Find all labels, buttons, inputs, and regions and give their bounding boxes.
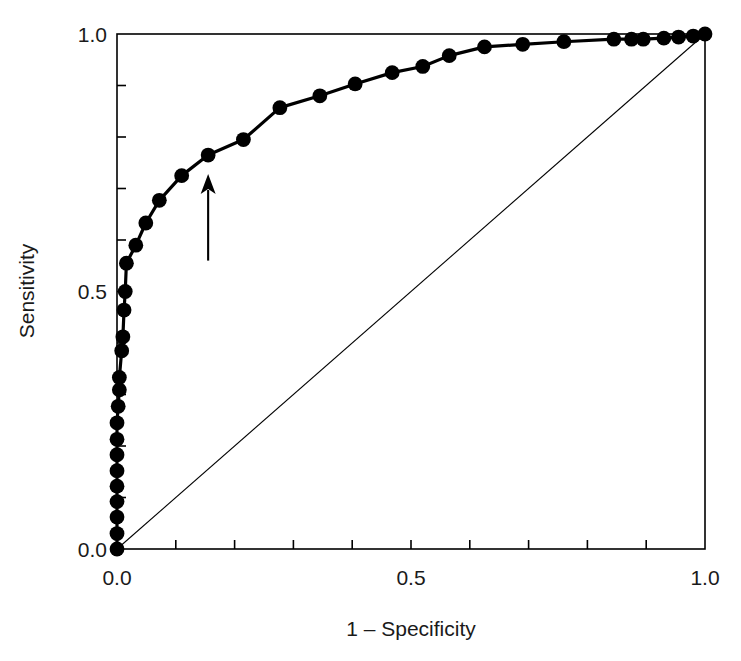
roc-data-point <box>656 31 671 46</box>
roc-data-point <box>115 329 130 344</box>
roc-data-point <box>118 284 133 299</box>
roc-plot-svg: 1.0 0.5 0.0 0.0 0.5 1.0 1 – Specificity … <box>0 0 741 661</box>
x-tick-label-0: 0.0 <box>102 566 131 589</box>
roc-chart-figure: 1.0 0.5 0.0 0.0 0.5 1.0 1 – Specificity … <box>0 0 741 661</box>
y-axis-title: Sensitivity <box>15 243 38 338</box>
roc-data-point <box>117 303 132 318</box>
roc-data-point <box>110 463 125 478</box>
roc-data-point <box>442 48 457 63</box>
roc-data-point <box>110 510 125 525</box>
roc-data-point <box>110 415 125 430</box>
roc-data-point <box>698 27 713 42</box>
roc-data-point <box>110 447 125 462</box>
y-tick-label-0p5: 0.5 <box>78 280 107 303</box>
roc-data-point <box>152 193 167 208</box>
roc-data-point <box>515 37 530 52</box>
roc-data-point <box>312 88 327 103</box>
roc-data-point <box>272 100 287 115</box>
roc-data-point <box>138 216 153 231</box>
roc-data-point <box>556 34 571 49</box>
roc-data-point <box>671 30 686 45</box>
roc-data-point <box>174 168 189 183</box>
roc-data-point <box>110 432 125 447</box>
roc-data-point <box>201 148 216 163</box>
roc-data-point <box>477 39 492 54</box>
roc-data-point <box>110 479 125 494</box>
roc-data-point <box>112 370 127 385</box>
roc-data-point <box>114 343 129 358</box>
roc-data-point <box>110 494 125 509</box>
roc-data-point <box>348 77 363 92</box>
y-tick-label-1: 1.0 <box>78 23 107 46</box>
x-tick-label-0p5: 0.5 <box>396 566 425 589</box>
roc-data-point <box>236 132 251 147</box>
roc-data-point <box>110 542 125 557</box>
roc-data-point <box>110 526 125 541</box>
roc-data-point <box>606 32 621 47</box>
roc-data-point <box>119 256 134 271</box>
x-tick-label-1: 1.0 <box>690 566 719 589</box>
roc-data-point <box>385 65 400 80</box>
roc-data-point <box>111 399 126 414</box>
x-axis-title: 1 – Specificity <box>346 617 476 640</box>
roc-data-point <box>415 59 430 74</box>
roc-data-point <box>636 32 651 47</box>
roc-data-point <box>128 238 143 253</box>
y-tick-label-0: 0.0 <box>78 538 107 561</box>
